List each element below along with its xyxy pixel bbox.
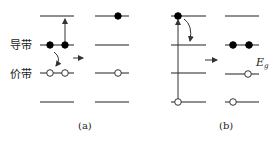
panel-b-after-electron [246, 42, 253, 49]
energy-gap-label: E [255, 56, 264, 69]
panel-b-electron [175, 13, 182, 20]
panel-a-electron [47, 42, 53, 48]
panel-b-relaxation-arrow [184, 19, 191, 41]
panel-b-after-hole [230, 99, 237, 106]
panel-a-after-electron [115, 13, 121, 19]
energy-gap-subscript: g [264, 62, 269, 70]
panel-a-after-hole [115, 70, 122, 77]
carrier-multiplication-diagram: 导带 价带 (a) [0, 0, 274, 141]
conduction-band-label: 导带 [10, 39, 32, 52]
valence-band-label: 价带 [10, 68, 32, 81]
panel-a-relaxation-arrow [54, 52, 59, 66]
panel-b-hole [175, 99, 182, 106]
panel-a: 导带 价带 (a) [10, 13, 129, 131]
panel-b-after-hole [245, 71, 252, 78]
panel-a-caption: (a) [78, 120, 92, 131]
panel-a-electron [62, 42, 68, 48]
panel-a-hole [47, 70, 54, 77]
panel-b: E g (b) [171, 13, 269, 131]
panel-a-hole [62, 70, 69, 77]
panel-b-caption: (b) [219, 120, 233, 131]
panel-b-after-electron [230, 42, 237, 49]
